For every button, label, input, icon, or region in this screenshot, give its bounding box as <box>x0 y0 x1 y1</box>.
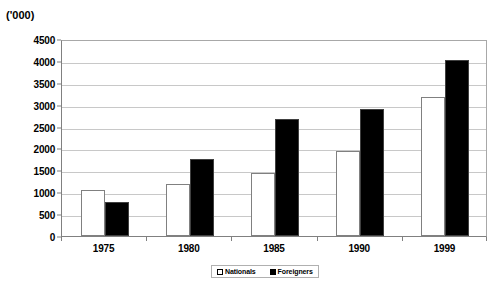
plot-area <box>61 40 487 237</box>
y-axis-tick-label: 2000 <box>34 144 55 155</box>
y-axis-tick-label: 2500 <box>34 122 55 133</box>
bar-foreigners-1975 <box>105 202 129 236</box>
legend-label: Nationals <box>225 268 256 275</box>
bar-group <box>251 41 299 236</box>
y-axis-tick-label: 1500 <box>34 166 55 177</box>
x-axis-tick-mark <box>486 237 487 241</box>
x-axis-tick-mark <box>317 237 318 241</box>
bar-foreigners-1980 <box>190 159 214 236</box>
legend-item-nationals: Nationals <box>217 268 256 275</box>
x-axis-tick-mark <box>146 237 147 241</box>
solid-square-icon <box>270 269 276 275</box>
x-axis: 19751980198519901999 <box>61 237 487 261</box>
x-axis-tick-label: 1990 <box>348 243 369 254</box>
bar-nationals-1980 <box>166 184 190 236</box>
bar-group <box>81 41 129 236</box>
chart-title <box>0 0 501 2</box>
bar-group <box>336 41 384 236</box>
x-axis-tick-label: 1980 <box>178 243 199 254</box>
chart-legend: NationalsForeigners <box>211 265 319 278</box>
x-axis-tick-label: 1985 <box>263 243 284 254</box>
x-axis-tick-mark <box>61 237 62 241</box>
x-axis-tick-mark <box>402 237 403 241</box>
bar-nationals-1975 <box>81 190 105 236</box>
bar-nationals-1999 <box>421 97 445 236</box>
bar-foreigners-1985 <box>275 119 299 236</box>
bar-nationals-1990 <box>336 151 360 236</box>
y-axis-tick-label: 1000 <box>34 188 55 199</box>
x-axis-tick-mark <box>231 237 232 241</box>
x-axis-tick-label: 1999 <box>434 243 455 254</box>
y-axis-tick-label: 4000 <box>34 56 55 67</box>
y-axis-tick-label: 4500 <box>34 35 55 46</box>
legend-item-foreigners: Foreigners <box>270 268 313 275</box>
bar-foreigners-1999 <box>445 60 469 236</box>
y-axis: 050010001500200025003000350040004500 <box>0 0 61 304</box>
y-axis-tick-label: 0 <box>50 232 55 243</box>
bar-nationals-1985 <box>251 173 275 236</box>
bar-group <box>166 41 214 236</box>
bar-foreigners-1990 <box>360 109 384 236</box>
y-axis-tick-label: 3500 <box>34 78 55 89</box>
bar-group <box>421 41 469 236</box>
hollow-square-icon <box>217 269 223 275</box>
bar-chart-figure: ('000) 050010001500200025003000350040004… <box>0 0 501 304</box>
legend-label: Foreigners <box>278 268 313 275</box>
y-axis-tick-label: 3000 <box>34 100 55 111</box>
y-axis-tick-label: 500 <box>39 210 55 221</box>
x-axis-tick-label: 1975 <box>93 243 114 254</box>
